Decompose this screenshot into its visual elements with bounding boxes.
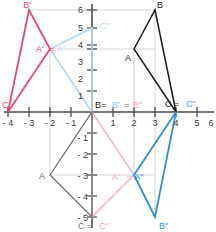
- point-label-c-bottom: C =: [78, 221, 92, 231]
- point-label-equals-origin: =: [124, 100, 129, 110]
- point-label-a-prime-left: A': [36, 44, 44, 54]
- x-tick-label-6: 6: [208, 118, 213, 128]
- coordinate-plane-figure: - 4 - 3 - 2 - 1 1 2 3 4 5 6 6 5 4 3 2 1 …: [0, 0, 216, 232]
- y-tick-label--4: - 4: [77, 192, 88, 202]
- point-label-equals-left: =: [49, 44, 54, 54]
- point-label-equals-lower: =: [126, 172, 131, 182]
- point-label-b-prime-origin: B': [112, 100, 120, 110]
- y-tick-label-1: 1: [78, 91, 83, 101]
- point-label-a-double-prime-left: A'': [57, 44, 67, 54]
- point-label-c-double-prime-bottom: C'': [99, 221, 109, 231]
- point-label-b: B: [157, 0, 163, 10]
- y-tick-label-6: 6: [78, 5, 83, 15]
- point-label-c-right: C =: [165, 99, 179, 109]
- axes: [4, 4, 214, 228]
- point-label-a-black: A: [125, 53, 131, 63]
- y-tick-label--3: - 3: [77, 171, 88, 181]
- point-label-c-prime: C': [2, 100, 10, 110]
- point-label-b-double-prime-origin: B'': [133, 100, 143, 110]
- x-tick-label--2: - 2: [45, 118, 56, 128]
- x-tick-label--3: - 3: [24, 118, 35, 128]
- x-tick-label-5: 5: [194, 118, 199, 128]
- point-label-b-double-prime-bottom: B'': [159, 221, 169, 231]
- point-label-a-prime-lower: A': [112, 172, 120, 182]
- y-tick-label-4: 4: [78, 40, 83, 50]
- x-tick-label-3: 3: [152, 118, 157, 128]
- point-label-a-double-prime-lower: A'': [134, 172, 144, 182]
- x-tick-label-4: 4: [173, 118, 178, 128]
- y-tick-label-5: 5: [78, 23, 83, 33]
- x-tick-label--1: - 1: [66, 118, 77, 128]
- y-tick-label--2: - 2: [77, 150, 88, 160]
- x-tick-label--4: - 4: [3, 118, 14, 128]
- point-label-b-origin: B=: [95, 100, 106, 110]
- point-label-c-double-prime-right: C'': [186, 99, 196, 109]
- triangle-red-reflected: [8, 10, 50, 112]
- y-tick-label-2: 2: [78, 74, 83, 84]
- point-label-b-prime: B': [23, 0, 31, 10]
- y-tick-label--1: - 1: [77, 133, 88, 143]
- point-label-a-gray-lower: A: [39, 171, 45, 181]
- y-tick-label-3: 3: [78, 57, 83, 67]
- triangle-lightblue-rotated: [50, 28, 92, 112]
- x-tick-label-2: 2: [131, 118, 136, 128]
- x-tick-label-1: 1: [110, 118, 115, 128]
- point-label-c-double-prime-top: C'': [100, 21, 110, 31]
